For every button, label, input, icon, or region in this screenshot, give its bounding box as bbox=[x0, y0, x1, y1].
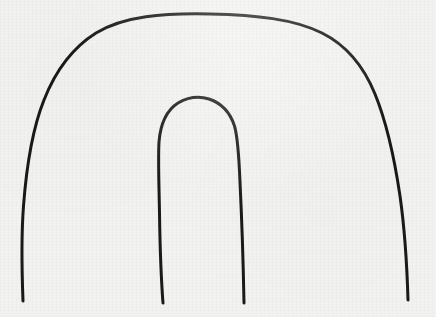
canvas-background bbox=[0, 0, 436, 317]
arch-sketch-svg bbox=[0, 0, 436, 317]
drawing-canvas bbox=[0, 0, 436, 317]
